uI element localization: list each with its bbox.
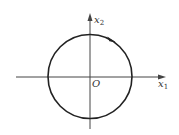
- x2-axis-arrow-icon: [88, 13, 93, 21]
- x2-axis-label: x2: [94, 14, 104, 27]
- x1-axis-label: x1: [158, 78, 168, 91]
- origin-label: O: [92, 78, 100, 89]
- phase-plane-diagram: x2 x1 O: [0, 0, 179, 135]
- diagram-svg: x2 x1 O: [0, 0, 179, 135]
